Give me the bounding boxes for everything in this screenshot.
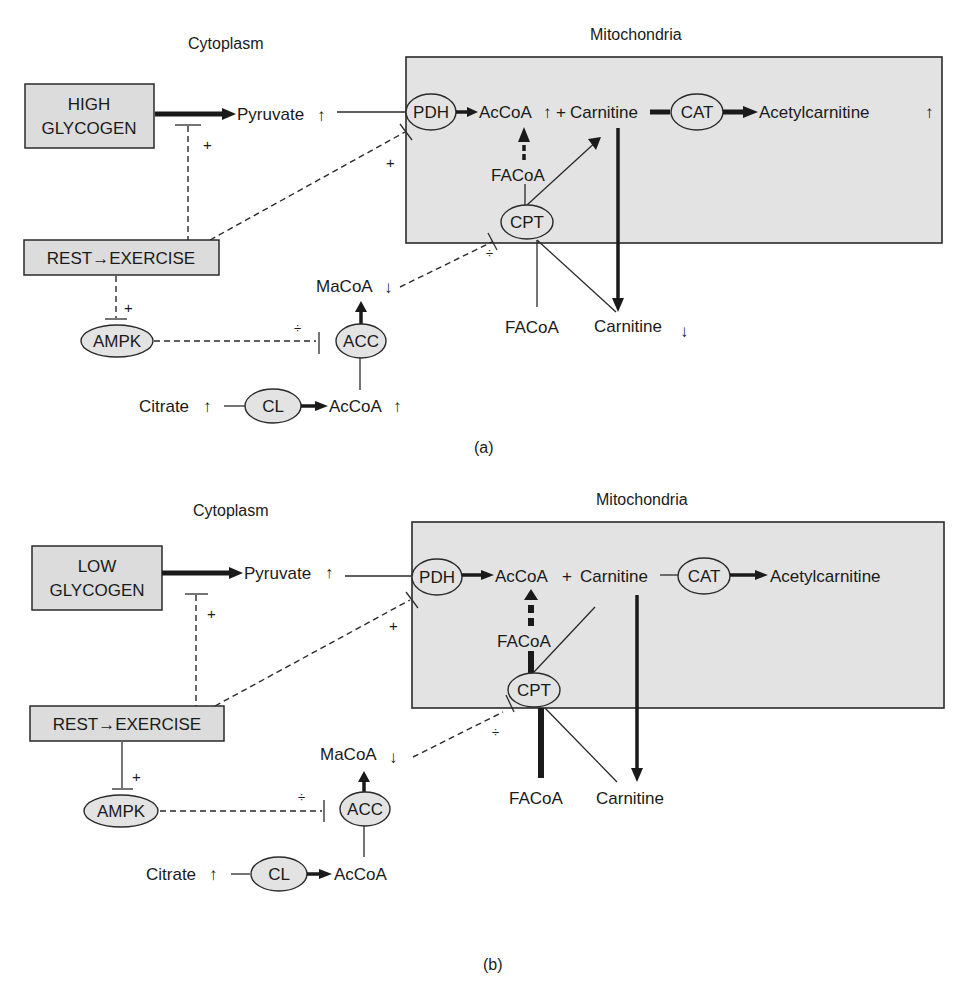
facoa-cyto-label: FACoA: [509, 789, 564, 808]
macoa-to-cpt-dashed: [413, 712, 503, 757]
acetylcarnitine-trend-icon: ↑: [925, 103, 934, 122]
accoa-mito-label: AcCoA: [495, 567, 549, 586]
carnitine-mito-label: Carnitine: [580, 567, 648, 586]
arrowhead-icon: [319, 869, 332, 879]
glycogen-line2: GLYCOGEN: [41, 119, 136, 138]
pyruvate-label: Pyruvate: [244, 564, 311, 583]
glycogen-sign: +: [207, 605, 216, 622]
mitochondria-compartment: [412, 522, 944, 708]
mitochondria-label: Mitochondria: [596, 491, 688, 508]
rest-exercise-label: REST→EXERCISE: [47, 249, 195, 268]
glycogen-sign: +: [203, 136, 212, 153]
mitochondria-label: Mitochondria: [590, 26, 682, 43]
arrowhead-icon: [631, 768, 643, 782]
cl-label: CL: [268, 865, 290, 884]
cpt-sign: ÷: [486, 246, 493, 261]
ampk-sign: +: [132, 768, 141, 785]
mitochondria-compartment: [406, 57, 942, 243]
panel-a: Cytoplasm Mitochondria HIGH GLYCOGEN Pyr…: [24, 26, 942, 456]
ampk-sign: +: [124, 299, 133, 316]
cpt-sign: ÷: [492, 725, 499, 740]
carnitine-cyto-label: Carnitine: [596, 789, 664, 808]
cytoplasm-label: Cytoplasm: [188, 35, 264, 52]
carnitine-cyto-trend-icon: ↓: [680, 322, 689, 341]
pyruvate-trend-icon: ↑: [317, 106, 326, 125]
arrowhead-icon: [229, 567, 243, 579]
cpt-label: CPT: [517, 681, 551, 700]
rest-exercise-label: REST→EXERCISE: [53, 715, 201, 734]
glycogen-line1: HIGH: [68, 95, 111, 114]
glycogen-line2: GLYCOGEN: [49, 581, 144, 600]
high-glycogen-box: [25, 84, 154, 148]
panel-caption: (b): [483, 956, 503, 973]
cpt-label: CPT: [510, 213, 544, 232]
macoa-trend-icon: ↓: [384, 278, 393, 297]
macoa-trend-icon: ↓: [389, 748, 398, 767]
pdh-sign: +: [389, 617, 398, 634]
acetylcarnitine-label: Acetylcarnitine: [759, 103, 870, 122]
pdh-label: PDH: [413, 103, 449, 122]
connector-line: [545, 708, 617, 782]
plus-join: +: [562, 567, 572, 586]
acetylcarnitine-label: Acetylcarnitine: [770, 567, 881, 586]
glycogen-line1: LOW: [78, 557, 117, 576]
accoa-cyto-label: AcCoA: [329, 397, 383, 416]
carnitine-cyto-label: Carnitine: [594, 317, 662, 336]
carnitine-mito-label: Carnitine: [570, 103, 638, 122]
pdh-label: PDH: [419, 568, 455, 587]
arrowhead-icon: [355, 301, 367, 312]
accoa-mito-trend-icon: ↑: [543, 103, 552, 122]
arrowhead-icon: [315, 401, 328, 411]
citrate-trend-icon: ↑: [203, 397, 212, 416]
accoa-cyto-trend-icon: ↑: [393, 397, 402, 416]
cat-label: CAT: [681, 103, 714, 122]
macoa-to-cpt-dashed: [400, 242, 492, 287]
macoa-label: MaCoA: [320, 745, 377, 764]
macoa-label: MaCoA: [316, 277, 373, 296]
arrowhead-icon: [222, 108, 236, 120]
plus-join: +: [556, 103, 566, 122]
cl-label: CL: [262, 397, 284, 416]
pyruvate-trend-icon: ↑: [325, 564, 333, 581]
panel-b: Cytoplasm Mitochondria LOW GLYCOGEN Pyru…: [30, 491, 944, 973]
cytoplasm-label: Cytoplasm: [193, 502, 269, 519]
ampk-label: AMPK: [97, 802, 146, 821]
citrate-trend-icon: ↑: [209, 865, 218, 884]
cat-label: CAT: [688, 567, 721, 586]
facoa-mito-label: FACoA: [497, 632, 552, 651]
diagram-canvas: Cytoplasm Mitochondria HIGH GLYCOGEN Pyr…: [0, 0, 964, 994]
pdh-sign: +: [386, 154, 395, 171]
acc-label: ACC: [347, 800, 383, 819]
arrowhead-icon: [358, 771, 370, 782]
accoa-cyto-label: AcCoA: [334, 865, 388, 884]
facoa-cyto-label: FACoA: [505, 318, 560, 337]
citrate-label: Citrate: [146, 865, 196, 884]
acc-sign: ÷: [298, 790, 305, 805]
panel-caption: (a): [474, 439, 494, 456]
pyruvate-label: Pyruvate: [237, 105, 304, 124]
low-glycogen-box: [32, 546, 162, 610]
exercise-to-pdh-dashed: [210, 132, 405, 240]
exercise-to-pdh-dashed: [215, 600, 410, 706]
connector-line: [537, 240, 616, 312]
accoa-mito-label: AcCoA: [479, 103, 533, 122]
acc-sign: ÷: [294, 321, 301, 336]
citrate-label: Citrate: [139, 397, 189, 416]
acc-label: ACC: [343, 332, 379, 351]
ampk-label: AMPK: [93, 332, 142, 351]
facoa-mito-label: FACoA: [491, 166, 546, 185]
